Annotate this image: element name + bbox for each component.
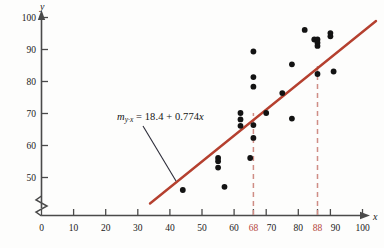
annotation-leader-line xyxy=(143,126,176,181)
data-point xyxy=(331,69,337,75)
x-tick-label-60: 60 xyxy=(229,223,239,233)
scatter-plot-figure: 100 90 80 70 60 50 0 10 20 30 40 50 60 6… xyxy=(0,0,384,248)
x-axis xyxy=(42,212,371,219)
x-tick-label-20: 20 xyxy=(101,223,111,233)
data-point xyxy=(238,110,244,116)
data-point xyxy=(289,61,295,67)
equation-variable: x xyxy=(199,111,204,122)
equation-body: = 18.4 + 0.774 xyxy=(136,111,199,122)
plot-canvas xyxy=(0,0,384,248)
x-tick-label-68: 68 xyxy=(249,223,259,233)
x-axis-label: x xyxy=(373,211,377,222)
data-point xyxy=(247,155,253,161)
regression-equation-annotation: my·x = 18.4 + 0.774x xyxy=(117,111,204,124)
y-tick-label-90: 90 xyxy=(12,45,36,55)
y-axis-label: y xyxy=(40,1,44,12)
data-point xyxy=(222,184,228,190)
data-point xyxy=(279,90,285,96)
y-tick-label-60: 60 xyxy=(12,141,36,151)
data-point xyxy=(180,187,186,193)
x-tick-label-90: 90 xyxy=(331,223,341,233)
y-tick-label-50: 50 xyxy=(12,173,36,183)
data-point xyxy=(315,43,321,49)
data-points xyxy=(180,27,337,193)
reference-lines xyxy=(253,63,317,215)
data-point xyxy=(251,122,257,128)
data-point xyxy=(251,84,257,90)
data-point xyxy=(315,71,321,77)
y-tick-label-70: 70 xyxy=(12,109,36,119)
data-point xyxy=(238,117,244,123)
x-tick-label-80: 80 xyxy=(294,223,304,233)
data-point xyxy=(251,49,257,55)
y-tick-label-80: 80 xyxy=(12,77,36,87)
data-point xyxy=(328,33,334,39)
data-point xyxy=(302,27,308,33)
data-point xyxy=(251,135,257,141)
data-point xyxy=(263,110,269,116)
x-tick-label-100: 100 xyxy=(355,223,369,233)
x-tick-label-70: 70 xyxy=(267,223,277,233)
data-point xyxy=(289,116,295,122)
x-tick-label-30: 30 xyxy=(133,223,143,233)
y-axis-ticks xyxy=(42,18,49,178)
y-tick-label-100: 100 xyxy=(12,13,36,23)
data-point xyxy=(238,123,244,129)
x-tick-label-10: 10 xyxy=(69,223,79,233)
data-point xyxy=(215,155,221,161)
x-tick-label-0: 0 xyxy=(39,223,44,233)
equation-subscript: y·x xyxy=(125,115,134,124)
x-tick-label-88: 88 xyxy=(313,223,323,233)
data-point xyxy=(251,74,257,80)
data-point xyxy=(215,165,221,171)
equation-symbol: m xyxy=(117,111,125,122)
x-tick-label-40: 40 xyxy=(165,223,175,233)
x-axis-ticks xyxy=(42,209,363,216)
x-tick-label-50: 50 xyxy=(197,223,207,233)
